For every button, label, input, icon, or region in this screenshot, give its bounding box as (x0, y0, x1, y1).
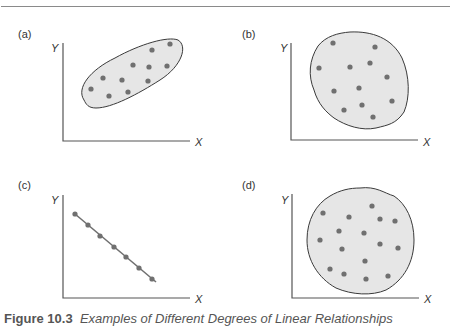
data-point (136, 265, 141, 270)
data-point (347, 64, 352, 69)
data-point (339, 246, 344, 251)
data-point (346, 214, 351, 219)
data-point (336, 228, 341, 233)
data-point (149, 276, 154, 281)
data-point (361, 230, 366, 235)
panel-a-label: (a) (18, 28, 31, 40)
caption-number: Figure 10.3 (4, 311, 73, 326)
panel-d-cloud (307, 188, 414, 294)
data-point (123, 254, 128, 259)
data-point (149, 47, 154, 52)
data-point (362, 258, 367, 263)
panel-c-label: (c) (18, 179, 31, 191)
data-point (384, 74, 389, 79)
data-point (372, 44, 377, 49)
data-point (330, 40, 335, 45)
caption-text: Examples of Different Degrees of Linear … (80, 311, 393, 326)
data-point (370, 114, 375, 119)
data-point (106, 93, 111, 98)
panel-d-y-label: Y (281, 194, 289, 206)
data-point (145, 78, 150, 83)
data-point (125, 89, 130, 94)
panel-d-label: (d) (242, 179, 255, 191)
panel-b-x-label: X (422, 136, 431, 148)
data-point (385, 273, 390, 278)
panel-a: (a) Y X (18, 28, 203, 148)
panel-b: (b) Y X (242, 28, 431, 148)
data-point (389, 98, 394, 103)
data-point (367, 60, 372, 65)
figure-caption: Figure 10.3 Examples of Different Degree… (4, 311, 393, 326)
panel-a-x-label: X (194, 136, 203, 148)
panel-b-cloud (310, 32, 408, 129)
data-point (369, 203, 374, 208)
data-point (111, 244, 116, 249)
data-point (377, 216, 382, 221)
data-point (363, 276, 368, 281)
panel-b-y-label: Y (280, 42, 288, 54)
data-point (100, 75, 105, 80)
data-point (317, 237, 322, 242)
panel-d-x-label: X (423, 293, 432, 305)
panel-d: (d) Y X (242, 179, 432, 305)
data-point (119, 77, 124, 82)
data-point (146, 64, 151, 69)
data-point (320, 210, 325, 215)
data-point (356, 85, 361, 90)
data-point (164, 63, 169, 68)
data-point (316, 65, 321, 70)
panel-c-axes (63, 195, 190, 298)
data-point (392, 218, 397, 223)
data-point (395, 245, 400, 250)
data-point (130, 62, 135, 67)
panel-c-x-label: X (194, 293, 203, 305)
data-point (72, 211, 77, 216)
panel-c: (c) Y X (18, 179, 203, 305)
data-point (359, 102, 364, 107)
panel-a-y-label: Y (51, 42, 59, 54)
panel-b-label: (b) (242, 28, 255, 40)
data-point (97, 233, 102, 238)
data-point (377, 241, 382, 246)
data-point (167, 41, 172, 46)
data-point (331, 88, 336, 93)
panel-a-cloud (82, 39, 183, 108)
data-point (85, 222, 90, 227)
panel-c-y-label: Y (51, 194, 59, 206)
data-point (327, 266, 332, 271)
data-point (341, 271, 346, 276)
data-point (341, 107, 346, 112)
data-point (88, 86, 93, 91)
